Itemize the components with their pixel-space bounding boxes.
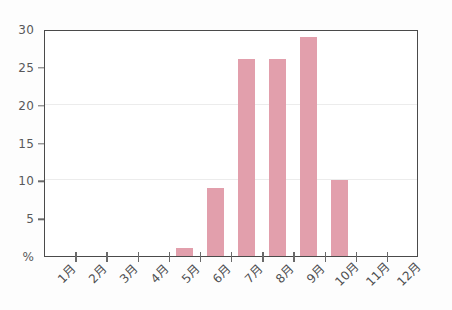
bar-slot	[45, 31, 76, 256]
bar	[176, 248, 192, 256]
bars-layer	[45, 31, 417, 256]
x-tick-label: 5月	[177, 260, 203, 286]
y-tick-label: 5	[26, 212, 34, 226]
bar	[207, 188, 223, 256]
bar-chart: %51015202530 1月2月3月4月5月6月7月8月9月10月11月12月	[0, 0, 452, 310]
plot-area	[44, 30, 418, 257]
bar-slot	[386, 31, 417, 256]
bar-slot	[200, 31, 231, 256]
x-tick-label: 2月	[84, 260, 110, 286]
x-tick-label: 8月	[271, 260, 297, 286]
x-tick-label: 3月	[115, 260, 141, 286]
bar	[331, 180, 347, 256]
x-tick-label: 7月	[239, 260, 265, 286]
bar	[269, 59, 285, 256]
bar	[238, 59, 254, 256]
y-tick-label: 30	[18, 23, 34, 37]
bar	[300, 37, 316, 256]
x-tick-label: 9月	[302, 260, 328, 286]
y-tick-label: 25	[18, 61, 34, 75]
x-tick-label: 12月	[392, 257, 424, 289]
x-tick-label: 10月	[330, 257, 362, 289]
x-axis-labels: 1月2月3月4月5月6月7月8月9月10月11月12月	[44, 257, 418, 310]
x-tick-label: 6月	[208, 260, 234, 286]
bar-slot	[169, 31, 200, 256]
bar-slot	[231, 31, 262, 256]
bar-slot	[324, 31, 355, 256]
bar-slot	[138, 31, 169, 256]
bar-slot	[107, 31, 138, 256]
x-tick-label: 4月	[146, 260, 172, 286]
y-tick-label: 20	[18, 99, 34, 113]
bar-slot	[293, 31, 324, 256]
y-tick-label: %	[22, 250, 34, 264]
x-tick-label: 1月	[52, 260, 78, 286]
y-tick-label: 15	[18, 137, 34, 151]
x-tick-label: 11月	[361, 257, 393, 289]
bar-slot	[76, 31, 107, 256]
y-axis: %51015202530	[0, 0, 44, 310]
y-tick-label: 10	[18, 174, 34, 188]
bar-slot	[355, 31, 386, 256]
bar-slot	[262, 31, 293, 256]
